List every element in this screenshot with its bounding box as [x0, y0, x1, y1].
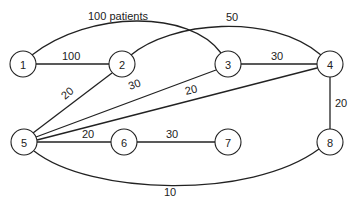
node-label: 2 — [119, 59, 125, 71]
node-7: 7 — [215, 129, 241, 155]
node-2: 2 — [109, 51, 135, 77]
node-label: 8 — [327, 137, 333, 149]
node-8: 8 — [317, 129, 343, 155]
edge-label-3-5: 30 — [127, 76, 143, 91]
graph-svg: 100 patients100503020302020302010 123456… — [0, 0, 351, 207]
edge-label-4-5: 20 — [184, 82, 199, 97]
edges-layer — [32, 21, 330, 186]
edge-label-2-4: 50 — [226, 11, 238, 23]
node-3: 3 — [215, 51, 241, 77]
node-4: 4 — [317, 51, 343, 77]
edge-1-3 — [32, 21, 221, 55]
node-label: 6 — [121, 137, 127, 149]
edge-5-8 — [34, 149, 319, 186]
edge-label-4-8: 20 — [335, 97, 347, 109]
node-5: 5 — [11, 129, 37, 155]
node-label: 3 — [225, 59, 231, 71]
edge-label-6-7: 30 — [166, 128, 178, 140]
edge-label-3-4: 30 — [271, 50, 283, 62]
edge-label-5-6: 20 — [82, 128, 94, 140]
edge-label-1-3: 100 patients — [88, 10, 148, 22]
network-diagram: 100 patients100503020302020302010 123456… — [0, 0, 351, 207]
node-label: 7 — [225, 137, 231, 149]
edge-label-5-8: 10 — [164, 186, 176, 198]
node-6: 6 — [111, 129, 137, 155]
node-label: 4 — [327, 59, 333, 71]
node-1: 1 — [10, 51, 36, 77]
edge-label-2-5: 20 — [59, 84, 76, 101]
edge-label-1-2: 100 — [62, 50, 80, 62]
node-label: 1 — [20, 59, 26, 71]
edge-labels-layer: 100 patients100503020302020302010 — [59, 10, 348, 198]
node-label: 5 — [21, 137, 27, 149]
